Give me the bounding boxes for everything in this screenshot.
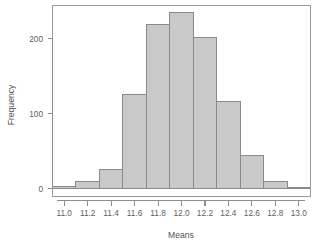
x-tick-label: 12.6 [244,208,261,218]
x-tick-label: 13.0 [291,208,308,218]
histogram-plot: 11.011.211.411.611.812.012.212.412.612.8… [0,0,324,246]
y-tick-label: 0 [38,184,43,194]
histogram-bar [264,182,287,189]
x-tick-label: 11.4 [103,208,119,218]
histogram-bar [146,24,169,188]
histogram-bar [287,187,310,189]
y-axis-ticks: 0100200 [29,34,52,194]
histogram-bar [123,94,146,189]
x-tick-label: 11.8 [150,208,166,218]
histogram-figure: 11.011.211.411.611.812.012.212.412.612.8… [0,0,324,246]
histogram-bar [76,181,99,189]
histogram-bar [240,156,263,189]
x-tick-label: 12.8 [267,208,284,218]
x-tick-label: 11.2 [80,208,96,218]
histogram-bar [217,102,240,189]
y-tick-label: 200 [29,34,43,44]
histogram-bar [99,170,122,189]
histogram-bar [193,38,216,189]
x-tick-label: 12.2 [197,208,214,218]
x-tick-label: 11.0 [56,208,72,218]
x-axis-title: Means [168,230,194,240]
histogram-bar [53,186,76,188]
x-axis-ticks: 11.011.211.411.611.812.012.212.412.612.8… [56,201,307,219]
x-tick-label: 12.0 [173,208,190,218]
x-tick-label: 11.6 [127,208,143,218]
y-tick-label: 100 [29,109,43,119]
bars-group [53,12,311,188]
histogram-bar [170,12,193,188]
x-tick-label: 12.4 [220,208,237,218]
y-axis-title: Frequency [6,84,16,125]
